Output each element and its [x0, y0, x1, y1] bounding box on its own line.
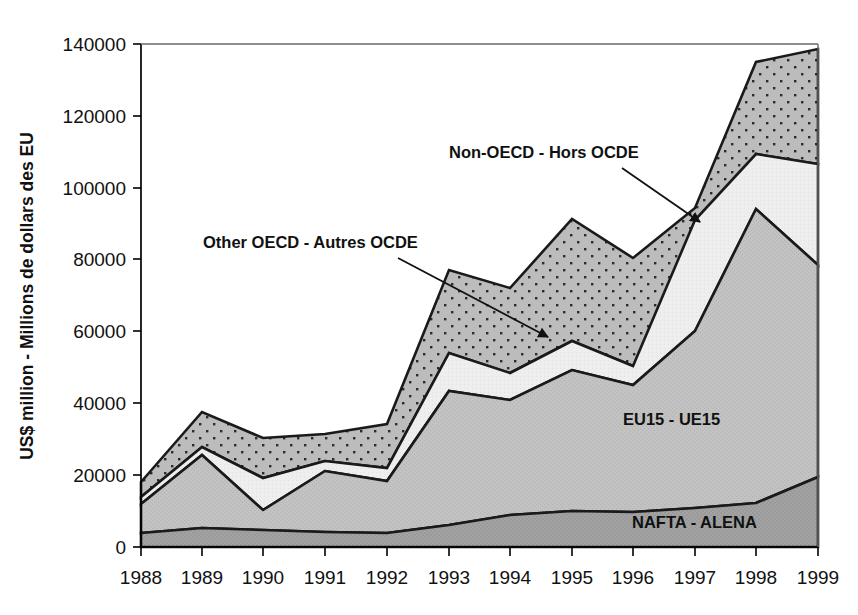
y-tick-label: 80000	[73, 249, 126, 270]
annotation-label-other-oecd: Other OECD - Autres OCDE	[203, 233, 418, 251]
x-tick-label-1997: 1997	[674, 567, 716, 588]
annotation-label-non-oecd: Non-OECD - Hors OCDE	[449, 143, 639, 161]
y-tick-label: 0	[115, 537, 126, 558]
y-tick-label: 20000	[73, 465, 126, 486]
y-tick-label: 60000	[73, 321, 126, 342]
series-label-nafta: NAFTA - ALENA	[632, 513, 757, 531]
y-tick-label: 120000	[63, 106, 126, 127]
y-tick-label: 40000	[73, 393, 126, 414]
x-tick-label-1995: 1995	[551, 567, 593, 588]
chart-canvas: 0 20000 40000 60000 80000 100000 120000 …	[0, 0, 858, 615]
x-tick-label-1990: 1990	[242, 567, 284, 588]
x-tick-label-1993: 1993	[428, 567, 470, 588]
x-tick-label-1994: 1994	[489, 567, 532, 588]
x-tick-label-1996: 1996	[612, 567, 654, 588]
x-tick-label-1998: 1998	[735, 567, 777, 588]
x-tick-label-1992: 1992	[366, 567, 408, 588]
y-tick-label: 100000	[63, 178, 126, 199]
x-tick-label-1999: 1999	[797, 567, 839, 588]
stacked-area-chart: 0 20000 40000 60000 80000 100000 120000 …	[0, 0, 858, 615]
x-tick-label-1989: 1989	[181, 567, 223, 588]
y-axis-title: US$ million - Millions de dollars des EU	[17, 132, 37, 460]
x-tick-label-1988: 1988	[120, 567, 162, 588]
y-tick-label: 140000	[63, 34, 126, 55]
x-tick-label-1991: 1991	[304, 567, 346, 588]
series-label-eu15: EU15 - UE15	[623, 410, 720, 428]
